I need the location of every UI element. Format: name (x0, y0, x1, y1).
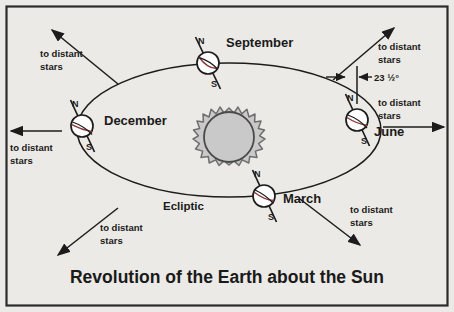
earth-december-north-pole-label: N (72, 99, 79, 109)
earth-september-month-label: September (226, 35, 293, 50)
earth-march-globe (253, 185, 275, 207)
earth-december-south-pole-label: S (86, 142, 92, 152)
star-arrow-top-left-label-line2: stars (40, 61, 63, 72)
star-arrow-top-right-label-line2: stars (378, 54, 401, 65)
star-arrow-top-right-label-line1: to distant (378, 41, 422, 52)
star-arrow-bottom-left-label-line2: stars (100, 235, 123, 246)
star-arrow-left-label-line1: to distant (10, 142, 54, 153)
earth-march-north-pole-label: N (254, 169, 261, 179)
star-arrow-bottom-right-label-line1: to distant (350, 204, 394, 215)
ecliptic-label: Ecliptic (163, 200, 205, 212)
earth-december-month-label: December (104, 113, 167, 128)
earth-revolution-diagram: N S September N S December N S June (0, 0, 454, 312)
sun-body (204, 112, 254, 162)
earth-september-south-pole-label: S (211, 79, 217, 89)
sun-group (193, 107, 265, 166)
earth-september-globe (197, 52, 219, 74)
star-arrow-right-label-line2: stars (378, 110, 401, 121)
star-arrow-left-label-line2: stars (10, 155, 33, 166)
diagram-canvas: N S September N S December N S June (0, 0, 454, 312)
earth-march-south-pole-label: S (268, 212, 274, 222)
earth-june-south-pole-label: S (361, 136, 367, 146)
earth-june-north-pole-label: N (347, 93, 354, 103)
star-arrow-bottom-left-label-line1: to distant (100, 222, 144, 233)
star-arrow-right-label-line1: to distant (378, 97, 422, 108)
star-arrow-top-left-label-line1: to distant (40, 48, 84, 59)
axis-tilt-value-label: 23 ½° (374, 72, 399, 83)
earth-september-north-pole-label: N (198, 36, 205, 46)
earth-march-month-label: March (283, 191, 321, 206)
star-arrow-bottom-right-label-line2: stars (350, 217, 373, 228)
diagram-title: Revolution of the Earth about the Sun (70, 267, 384, 287)
